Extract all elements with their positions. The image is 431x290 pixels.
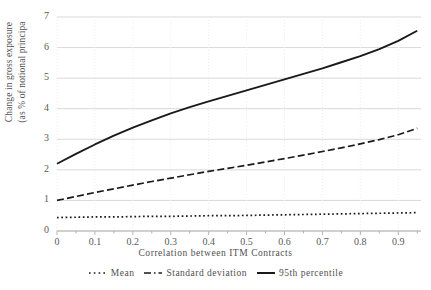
legend-label-mean: Mean (111, 268, 135, 278)
x-axis-tick-label: 0.1 (80, 236, 110, 247)
chart-legend: Mean Standard deviation 95th percentile (0, 268, 431, 278)
x-axis-tick-label: 0.6 (270, 236, 300, 247)
x-axis-tick-label: 0 (42, 236, 72, 247)
x-axis-tick-label: 0.9 (383, 236, 413, 247)
x-axis-tick-label: 0.7 (307, 236, 337, 247)
legend-label-standard-deviation: Standard deviation (166, 268, 247, 278)
y-axis-tick-label: 7 (33, 10, 49, 21)
series-line-mean (57, 213, 417, 218)
chart-container: Change in gross exposure (as % of notion… (0, 0, 431, 290)
x-axis-tick-label: 0.3 (156, 236, 186, 247)
x-axis-tick-label: 0.5 (232, 236, 262, 247)
x-axis-tick-label: 0.8 (345, 236, 375, 247)
y-axis-tick-label: 4 (33, 102, 49, 113)
y-axis-tick-label: 0 (33, 224, 49, 235)
legend-marker-solid-icon (256, 269, 276, 277)
x-axis-tick-label: 0.2 (118, 236, 148, 247)
legend-marker-dashed-icon (143, 269, 163, 277)
legend-item-mean: Mean (88, 268, 135, 278)
legend-marker-dotted-icon (88, 269, 108, 277)
legend-label-95th-percentile: 95th percentile (279, 268, 343, 278)
y-axis-tick-label: 1 (33, 193, 49, 204)
x-axis-label: Correlation between ITM Contracts (0, 248, 431, 258)
legend-item-standard-deviation: Standard deviation (143, 268, 247, 278)
y-axis-tick-label: 3 (33, 132, 49, 143)
legend-item-95th-percentile: 95th percentile (256, 268, 343, 278)
y-axis-tick-label: 6 (33, 41, 49, 52)
y-axis-tick-label: 5 (33, 71, 49, 82)
y-axis-tick-label: 2 (33, 163, 49, 174)
x-axis-tick-label: 0.4 (194, 236, 224, 247)
